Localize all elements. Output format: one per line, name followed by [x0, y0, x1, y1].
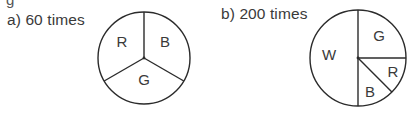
- spinner-a: R B G: [98, 12, 190, 104]
- spinner-b-sector-r: R: [388, 63, 399, 80]
- spinner-a-center-dot: [143, 57, 146, 60]
- spinner-b-sector-g: G: [373, 27, 385, 44]
- spinner-a-sector-r: R: [117, 33, 128, 50]
- spinner-a-sector-b: B: [160, 33, 170, 50]
- spinner-b-sector-w: W: [322, 46, 337, 63]
- spinner-b-center-dot: [357, 57, 360, 60]
- spinner-b: W G R B: [310, 10, 406, 106]
- spinner-diagrams: R B G W G R B: [0, 0, 416, 117]
- spinner-b-sector-b: B: [365, 83, 375, 100]
- spinner-a-divider-lower-right: [144, 58, 184, 81]
- spinner-a-sector-g: G: [138, 71, 150, 88]
